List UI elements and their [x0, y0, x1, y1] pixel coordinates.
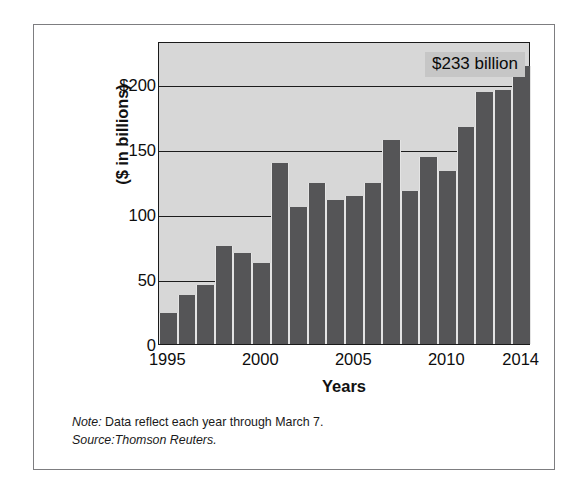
y-axis-tick-labels: 050100150$200	[94, 25, 156, 471]
y-tick-label-50: 50	[94, 272, 156, 289]
bar-2009[interactable]	[419, 157, 438, 344]
bar-1995[interactable]	[159, 313, 178, 344]
bar-2011[interactable]	[457, 127, 476, 344]
bar-2010[interactable]	[438, 171, 457, 344]
y-tick-label-100: 100	[94, 207, 156, 224]
bar-1997[interactable]	[196, 285, 215, 344]
chart-figure-frame: ($ in billions) 050100150$200 $233 billi…	[33, 24, 555, 470]
y-tick-label-150: 150	[94, 142, 156, 159]
footnote-note-lead: Note:	[72, 415, 102, 429]
x-tick-label-2000: 2000	[242, 350, 279, 369]
plot-area: $233 billion	[158, 42, 530, 345]
footnote-source-lead: Source:	[72, 433, 115, 447]
y-tick-label-200: $200	[94, 77, 156, 94]
bar-series	[159, 43, 529, 344]
footnote-source: Source:Thomson Reuters.	[72, 432, 512, 450]
bar-2006[interactable]	[364, 183, 383, 344]
x-tick-label-2010: 2010	[428, 350, 465, 369]
x-tick-label-2005: 2005	[335, 350, 372, 369]
bar-2005[interactable]	[345, 196, 364, 344]
bar-2002[interactable]	[289, 207, 308, 344]
x-axis-title: Years	[158, 377, 530, 396]
bar-2000[interactable]	[252, 263, 271, 344]
bar-2012[interactable]	[475, 92, 494, 344]
y-tick-label-0: 0	[94, 337, 156, 354]
bar-2003[interactable]	[308, 183, 327, 344]
x-tick-label-1995: 1995	[149, 350, 186, 369]
bar-1996[interactable]	[178, 295, 197, 344]
x-axis-tick-labels: 19952000200520102014	[158, 350, 530, 376]
plot-inner	[159, 43, 529, 344]
footnote-note: Note: Data reflect each year through Mar…	[72, 414, 512, 432]
bar-1998[interactable]	[215, 246, 234, 344]
bar-2001[interactable]	[271, 163, 290, 344]
bar-2007[interactable]	[382, 140, 401, 344]
bar-2008[interactable]	[401, 191, 420, 344]
bar-1999[interactable]	[233, 253, 252, 344]
x-tick-label-2014: 2014	[502, 350, 539, 369]
footnote-source-text: Thomson Reuters.	[115, 433, 217, 447]
bar-2013[interactable]	[494, 90, 513, 344]
bar-2014[interactable]	[512, 66, 531, 344]
chart-footnotes: Note: Data reflect each year through Mar…	[72, 414, 512, 450]
bar-2004[interactable]	[326, 200, 345, 344]
value-annotation-label: $233 billion	[425, 52, 525, 77]
footnote-note-text: Data reflect each year through March 7.	[102, 415, 324, 429]
